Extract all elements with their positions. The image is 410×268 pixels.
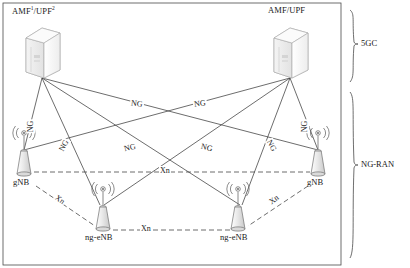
group-label-ng-ran: NG-RAN [361,159,394,169]
upf-sup-2: 2 [52,5,55,11]
node-label-amf-upf-right: AMF/UPF [268,5,305,15]
upf-text: UPF [36,6,52,16]
node-label-gnb-right: gNB [307,177,323,187]
amf-text: AMF [12,6,31,16]
xn-link-gnb-left-ngenb-left [36,186,95,226]
node-label-amf-upf-left: AMF1/UPF2 [12,5,55,16]
link-label-ng-3: NG [129,98,144,109]
diagram-canvas [0,0,410,268]
link-label-xn-center: Xn [159,166,171,175]
link-label-ng-1: NG [26,120,35,134]
link-label-xn-bottom: Xn [140,224,152,233]
group-brace-5gc [350,10,358,82]
base-station-icon-gnb-left [13,126,35,176]
base-station-icon-ngenb-right [227,182,249,231]
server-box-icon-left [26,28,60,78]
node-label-ngenb-left: ng-eNB [85,232,113,242]
base-station-icon-ngenb-left [92,182,114,231]
link-label-ng-5: NG [300,120,309,134]
ng-link-amf-left-ngenb-right [42,78,240,205]
base-station-icon-gnb-right [307,126,329,176]
link-label-ng-7: NG [192,98,207,109]
network-architecture-diagram: AMF1/UPF2 1 2 AMF/UPF gNB gNB ng-eNB ng-… [0,0,410,268]
xn-link-gnb-right-ngenb-right [248,186,308,226]
server-box-icon-right [274,28,308,78]
ng-link-amf-right-gnb-right [290,78,318,150]
group-label-5gc: 5GC [361,38,377,48]
group-brace-ng-ran [350,92,358,258]
node-label-ngenb-right: ng-eNB [220,232,248,242]
node-label-gnb-left: gNB [13,177,29,187]
